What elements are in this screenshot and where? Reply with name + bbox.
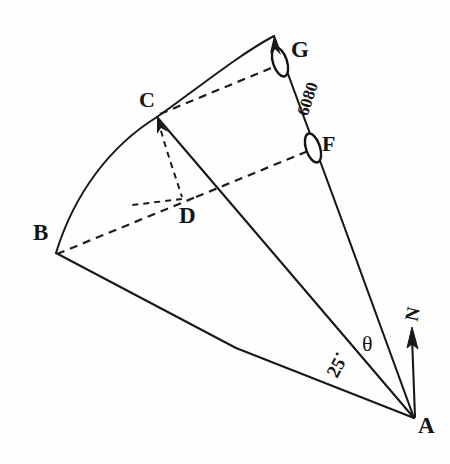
vertex-label-D: D <box>179 203 196 229</box>
vertex-label-B: B <box>33 220 48 246</box>
edge-A-B <box>56 253 414 418</box>
geometry-diagram: B C D F G A N θ 25˙ 6080 <box>0 0 450 464</box>
vertex-label-A: A <box>418 413 435 439</box>
vertex-label-C: C <box>139 87 155 113</box>
edge-B-D-dashed <box>57 197 196 254</box>
vertex-label-G: G <box>291 37 309 63</box>
arrowhead-C <box>157 117 168 134</box>
vertex-label-F: F <box>322 131 335 157</box>
edge-B-C-arc <box>56 117 157 253</box>
diagram-canvas <box>0 0 450 464</box>
edge-D-F-dashed <box>196 151 308 197</box>
edge-A-C <box>157 117 414 418</box>
marker-F <box>302 132 325 165</box>
north-arrow-shaft <box>412 337 415 417</box>
solid-edge-group <box>56 36 414 418</box>
edge-C-apex-arc <box>157 36 274 117</box>
angle-theta-label: θ <box>362 331 373 357</box>
edge-D-tick-dashed <box>132 199 182 205</box>
arrowhead-group <box>157 36 281 134</box>
